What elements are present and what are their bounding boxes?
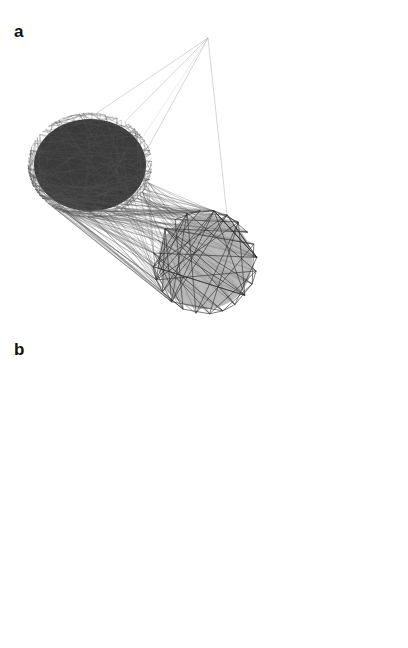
edges (28, 38, 257, 314)
network-graph-b (0, 324, 408, 648)
network-graph-a (0, 0, 408, 324)
panel-a: a (0, 0, 408, 324)
panel-b: b (0, 324, 408, 648)
